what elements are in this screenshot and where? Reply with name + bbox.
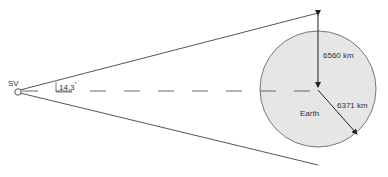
angle-label: 14.3°: [59, 81, 77, 92]
distance-label: 6560 km: [323, 51, 354, 60]
sv-label: SV: [8, 79, 19, 88]
satellite-view-diagram: SV 14.3° 6560 km 6371 km Earth: [0, 0, 388, 177]
sv-point: [15, 89, 21, 95]
radius-label: 6371 km: [337, 101, 368, 110]
earth-label: Earth: [300, 109, 319, 118]
